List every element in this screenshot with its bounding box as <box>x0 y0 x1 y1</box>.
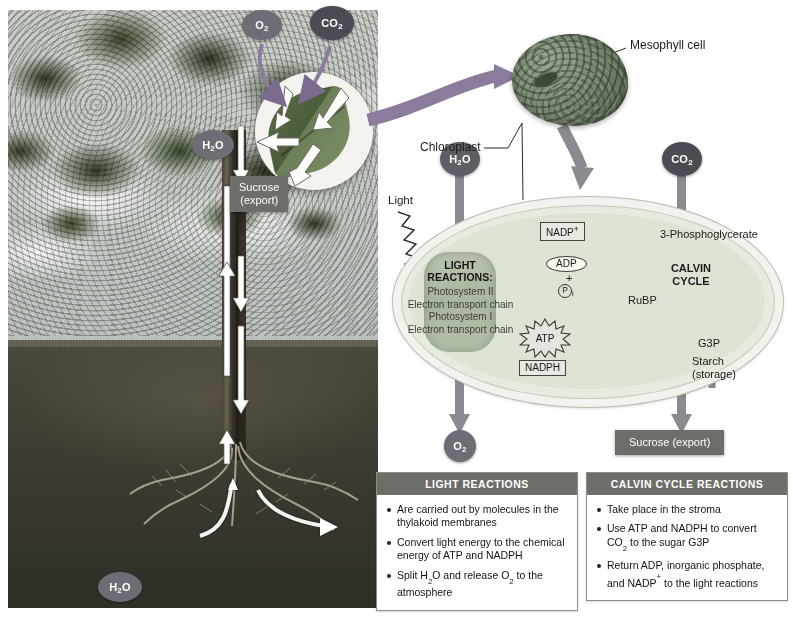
inorganic-phosphate-tag: Pi <box>558 284 574 298</box>
atp-label: ATP <box>536 333 555 344</box>
leaf-gas-exchange-arrows <box>255 72 373 190</box>
light-reactions-title: LIGHT REACTIONS: <box>424 260 496 283</box>
list-item: Are carried out by molecules in the thyl… <box>386 503 568 530</box>
starch-line-1: Starch <box>692 355 736 368</box>
nadp-plus-tag: NADP+ <box>540 222 585 241</box>
o2-leaf-bubble: O2 <box>242 10 282 40</box>
light-label: Light <box>388 194 413 206</box>
light-reactions-step-3: Electron transport chain <box>383 324 538 337</box>
sucrose-export-output-box: Sucrose (export) <box>615 430 724 455</box>
h2o-root-bubble: H2O <box>98 572 142 602</box>
light-reactions-summary-box: LIGHT REACTIONS Are carried out by molec… <box>376 472 578 611</box>
nadp-plus-base: NADP <box>546 227 574 238</box>
starch-line-2: (storage) <box>692 368 736 381</box>
tree-photo-scene: Sucrose (export) <box>8 10 378 608</box>
calvin-title-line2: CYCLE <box>654 275 728 288</box>
co2-leaf-label: CO2 <box>321 17 343 29</box>
adp-plus-sign: + <box>566 272 572 284</box>
h2o-leaf-label: H2O <box>202 139 224 151</box>
h2o-root-label: H2O <box>109 581 131 593</box>
h2o-input-label: H2O <box>449 153 471 165</box>
o2-leaf-label: O2 <box>255 19 268 31</box>
adp-tag: ADP <box>546 256 587 272</box>
rubp-label: RuBP <box>628 294 657 306</box>
calvin-cycle-summary-box: CALVIN CYCLE REACTIONS Take place in the… <box>586 472 788 601</box>
light-reactions-title-line2: REACTIONS: <box>424 272 496 284</box>
mesophyll-cell <box>512 34 628 126</box>
chloroplast-label: Chloroplast <box>420 140 481 154</box>
light-reactions-summary-header: LIGHT REACTIONS <box>377 473 577 495</box>
mesophyll-cell-label: Mesophyll cell <box>630 38 705 52</box>
co2-input-label: CO2 <box>671 153 693 165</box>
light-reactions-step-1: Electron transport chain <box>383 299 538 312</box>
light-reactions-steps: Photosystem II Electron transport chain … <box>383 286 538 336</box>
calvin-cycle-summary-list: Take place in the stromaUse ATP and NADP… <box>587 495 787 600</box>
list-item: Convert light energy to the chemical ene… <box>386 536 568 563</box>
pi-circle: P <box>558 284 572 298</box>
list-item: Split H2O and release O2 to the atmosphe… <box>386 569 568 600</box>
nadp-plus-sup: + <box>574 224 579 234</box>
o2-output-bubble: O2 <box>444 430 476 462</box>
sucrose-export-photo-label: Sucrose (export) <box>230 176 288 212</box>
starch-label: Starch (storage) <box>692 355 736 381</box>
calvin-title-line1: CALVIN <box>654 262 728 275</box>
sucrose-line-2: (export) <box>239 194 279 207</box>
g3p-label: G3P <box>698 337 720 349</box>
nadph-tag: NADPH <box>519 360 566 376</box>
mesophyll-texture <box>512 34 628 126</box>
list-item: Return ADP, inorganic phosphate, and NAD… <box>596 559 778 589</box>
atp-burst-tag: ATP <box>519 318 571 358</box>
light-reactions-title-line1: LIGHT <box>424 260 496 272</box>
list-item: Use ATP and NADPH to convert CO2 to the … <box>596 522 778 553</box>
root-water-arrows <box>128 478 378 558</box>
calvin-cycle-title: CALVIN CYCLE <box>654 262 728 288</box>
light-reactions-summary-list: Are carried out by molecules in the thyl… <box>377 495 577 610</box>
o2-output-label: O2 <box>453 440 466 452</box>
list-item: Take place in the stroma <box>596 503 778 516</box>
sucrose-line-1: Sucrose <box>239 181 279 194</box>
pi-subscript: i <box>572 289 574 298</box>
light-reactions-step-0: Photosystem II <box>383 286 538 299</box>
photosynthesis-diagram: Sucrose (export) <box>0 0 793 620</box>
pga-label: 3-Phosphoglycerate <box>660 228 758 240</box>
h2o-leaf-bubble: H2O <box>192 130 234 160</box>
light-reactions-step-2: Photosystem I <box>383 311 538 324</box>
co2-input-bubble: CO2 <box>662 142 702 176</box>
leaf-magnifier-circle <box>255 72 373 190</box>
calvin-cycle-summary-header: CALVIN CYCLE REACTIONS <box>587 473 787 495</box>
co2-leaf-bubble: CO2 <box>310 6 354 40</box>
